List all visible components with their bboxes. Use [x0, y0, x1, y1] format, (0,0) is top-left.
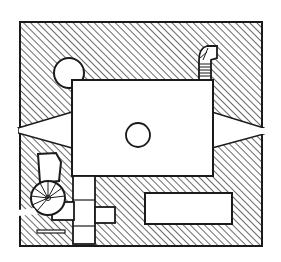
chamber-sw	[38, 153, 61, 183]
floor-plan	[0, 0, 281, 262]
passage-south	[73, 176, 95, 244]
spiral-stair-sw	[31, 181, 65, 215]
slit-sw	[37, 230, 65, 233]
passage-east-stub	[95, 207, 115, 223]
chamber-se	[145, 193, 232, 224]
central-column	[126, 123, 150, 147]
